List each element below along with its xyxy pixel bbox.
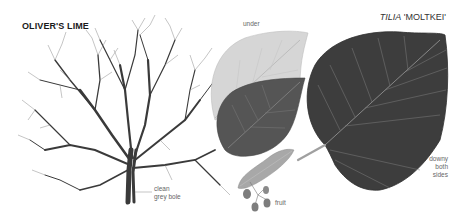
label-downy-line3: sides [429, 171, 448, 179]
fine-twigs [18, 15, 230, 195]
label-bole-line2: grey bole [154, 193, 181, 201]
common-name-title: OLIVER'S LIME [22, 21, 89, 31]
botanical-illustration [0, 0, 459, 221]
species-name: TILIA 'MOLTKEI' [380, 12, 446, 22]
species-cultivar: 'MOLTKEI' [404, 12, 446, 22]
species-genus: TILIA [380, 12, 402, 22]
label-under: under [243, 20, 260, 28]
label-downy-line1: downy [429, 155, 448, 163]
label-downy: downy both sides [429, 155, 448, 179]
leaf-upperside-large [298, 32, 448, 190]
label-downy-line2: both [429, 163, 448, 171]
illustration-page: OLIVER'S LIME TILIA 'MOLTKEI' under clea… [0, 0, 459, 221]
label-fruit: fruit [275, 199, 286, 207]
label-bole: clean grey bole [154, 185, 181, 201]
label-bole-line1: clean [154, 185, 181, 193]
bare-tree-illustration [30, 30, 220, 202]
